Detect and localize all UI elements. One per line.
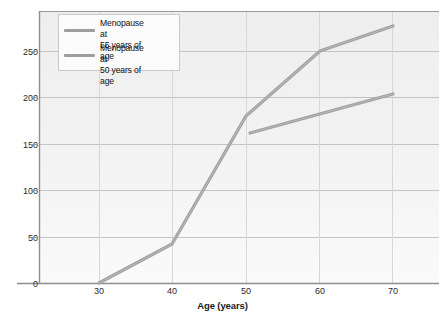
legend-label-menopause-50: Menopause at 50 years of age [100,43,144,87]
x-axis-title: Age (years) [0,300,445,311]
y-tick-100: 100 [0,186,38,196]
y-tick-50: 50 [0,233,38,243]
y-tick-mark [31,144,38,145]
y-tick-0: 0 [0,279,38,289]
y-tick-150: 150 [0,140,38,150]
x-tick-label-70: 70 [378,286,408,296]
x-tick-label-60: 60 [305,286,335,296]
y-tick-250: 250 [0,47,38,57]
x-tick-label-30: 30 [84,286,114,296]
y-tick-mark [31,51,38,52]
legend-swatch-icon [64,54,95,57]
y-tick-200: 200 [0,93,38,103]
y-tick-mark [31,190,38,191]
x-tick-label-50: 50 [231,286,261,296]
legend: Menopause at 55 years of age Menopause a… [58,14,180,71]
legend-swatch-icon [64,29,95,32]
incidence-rate-line-chart: 250 200 150 100 50 0 30 40 50 60 70 Inci… [0,0,445,323]
y-tick-label-0: 0 [12,279,38,289]
y-tick-mark [31,237,38,238]
x-tick-label-40: 40 [157,286,187,296]
y-tick-mark [31,97,38,98]
